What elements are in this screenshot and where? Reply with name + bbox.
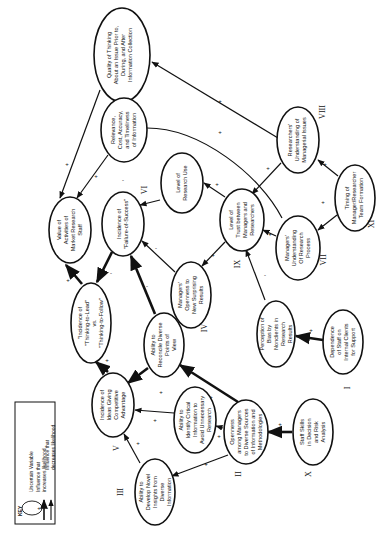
roman-numeral: IX — [233, 260, 242, 269]
node-label: Team Formation — [358, 178, 364, 218]
roman-numeral: X — [304, 471, 313, 477]
edge-reconcile-to-ideas — [128, 368, 148, 383]
legend-uncertain-label: Uncertain Variable — [28, 451, 34, 492]
node-label: of Information and — [250, 409, 256, 454]
edge-timing-to-researchers — [318, 160, 338, 176]
node-label: Competitive — [113, 390, 119, 420]
node-label: Perception of — [259, 317, 265, 350]
node-label: Level of — [175, 173, 181, 193]
node-label: Process — [305, 238, 311, 258]
node-label: Internal Clients — [343, 323, 349, 361]
edge-relevance-to-value — [77, 155, 108, 198]
node-label: Information Collection — [127, 28, 133, 82]
sign: - — [146, 283, 148, 289]
node-label: Results — [287, 324, 293, 343]
node-label: Of Research — [298, 232, 304, 263]
sign: + — [321, 199, 325, 205]
sign: + — [278, 421, 282, 427]
sign: - — [264, 272, 266, 278]
sign: + — [159, 389, 163, 395]
edge-ideas-to-thinking — [96, 362, 108, 372]
edge-openness-to-failure — [142, 241, 175, 272]
sign: + — [204, 461, 208, 467]
node-label: Relevance, — [110, 116, 116, 144]
node-label: Research — [206, 408, 212, 432]
node-label: "Thinking-to-Follow" — [98, 298, 104, 348]
node-label: of Information — [131, 113, 137, 147]
edge-reconcile-to-failure — [131, 256, 155, 314]
node-label: Ideas Giving — [106, 389, 112, 420]
node-label: Manager/Researcher — [351, 172, 357, 225]
node-managers-openness: Managers' Openness to New Surprising Res… — [171, 262, 211, 328]
roman-numeral: IV — [200, 324, 209, 333]
node-label: Researchers' — [287, 124, 293, 157]
node-label: Managers' — [284, 235, 290, 261]
node-quality-thinking: Quality of Thinking About an Issue Prior… — [94, 8, 150, 102]
sign: + — [323, 161, 327, 167]
node-label: Insights from — [152, 476, 158, 508]
node-label: Trust between — [235, 202, 241, 237]
sign: + — [309, 327, 313, 333]
node-label: Activities of — [63, 215, 69, 244]
node-label: Managers' — [177, 282, 183, 308]
edge-research-use-to-failure — [140, 200, 160, 205]
node-dependence: Dependence of Staff on Internal Clients … — [323, 310, 363, 389]
node-label: Avoid Unnecessary — [199, 396, 205, 444]
node-trust: Level of Trust between Managers and Rese… — [220, 189, 264, 268]
edge-dependence-to-bias — [296, 336, 323, 340]
legend-key: KEY Uncertain Variable + Influence that … — [15, 402, 56, 524]
edge-failure-to-thinking — [97, 252, 112, 282]
node-timing: Timing of Manager/Researcher Team Format… — [335, 165, 376, 231]
node-label: Methodologies — [257, 414, 263, 451]
node-label: New Surprising — [191, 276, 197, 314]
node-label: About an Issue Prior to, — [113, 25, 119, 84]
node-label: Ability to — [178, 409, 184, 430]
node-label: Value of — [56, 220, 62, 241]
node-label: Openness — [229, 419, 235, 445]
node-label: Advantage — [120, 392, 126, 419]
sign: + — [94, 173, 98, 179]
edge-openness-to-novel — [172, 455, 228, 476]
sign: - — [110, 270, 112, 276]
node-label: "Thinking-to-Lead" — [84, 300, 90, 346]
edge-openness-to-identify — [216, 426, 223, 428]
roman-numeral: III — [116, 488, 125, 496]
sign: + — [215, 181, 219, 187]
node-label: Reconcile Diverse — [157, 322, 163, 367]
node-label: Nonclients in — [273, 318, 279, 350]
node-novel-insights: Ability to Develop Novel Insights from D… — [116, 459, 175, 525]
node-label: Diverse — [159, 483, 165, 502]
node-label: Market Research — [70, 209, 76, 252]
sign: + — [218, 98, 222, 104]
edge-bias-to-trust — [246, 250, 265, 300]
node-label: Dependence — [329, 326, 335, 358]
node-label: in Decision — [306, 418, 312, 445]
node-label: View — [171, 338, 177, 351]
roman-numeral: V — [112, 445, 121, 451]
legend-decrease-label: decreases likelihood — [50, 424, 56, 470]
node-label: Cost, Accuracy, — [117, 110, 123, 149]
node-label: "Failure-of-Success" — [123, 199, 129, 250]
node-label: Staff — [77, 224, 83, 236]
node-label: vs. — [91, 319, 97, 327]
node-label: Points of — [164, 334, 170, 356]
sign: + — [217, 433, 221, 439]
node-label: Bias by — [266, 325, 272, 344]
node-label: Understanding of — [294, 118, 300, 161]
node-label: Research Use — [182, 165, 188, 200]
node-ideas-advantage: Incidence of Ideas Giving Competitive Ad… — [92, 373, 134, 451]
node-label: Incidence of — [99, 389, 105, 420]
sign: - — [122, 177, 124, 183]
node-label: Quality of Thinking — [106, 32, 112, 78]
node-label: During, and After — [120, 34, 126, 76]
node-label: Information to — [192, 403, 198, 437]
roman-numeral: II — [234, 471, 243, 477]
roman-numeral: I — [343, 386, 352, 389]
node-label: and Risk — [313, 421, 319, 443]
node-researchers-understanding: Researchers' Understanding of Managerial… — [277, 105, 327, 173]
legend-plus: + — [37, 505, 41, 511]
sign: + — [218, 129, 222, 135]
sign: + — [136, 440, 140, 446]
node-label: and Timeliness — [124, 111, 130, 149]
node-label: Results — [198, 285, 204, 304]
